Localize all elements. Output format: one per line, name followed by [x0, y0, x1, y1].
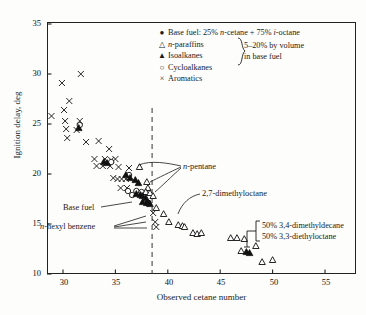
annotation-bracket-line1: 50% 3,4-dimethyldecane — [262, 220, 344, 231]
annotation-n-hexyl-benzene: n-hexyl benzene — [40, 222, 95, 232]
filled-triangle-marker-icon: ▲ — [156, 50, 168, 62]
figure-container: Ignition delay, deg Observed cetane numb… — [0, 0, 366, 315]
x-tick-label-30: 30 — [56, 277, 72, 287]
x-tick-label-45: 45 — [213, 277, 229, 287]
x-tick-label-40: 40 — [161, 277, 177, 287]
legend-brace-line2: in base fuel — [244, 51, 304, 63]
filled-circle-marker-icon: ● — [156, 27, 168, 39]
legend-brace-note: 5–20% by volume in base fuel — [244, 40, 304, 63]
y-tick-label-20: 20 — [22, 168, 41, 178]
annotation-bracket-line2: 50% 3,3-diethyloctane — [262, 231, 336, 242]
y-tick-label-30: 30 — [22, 68, 41, 78]
legend-row-cycloalkanes: ○ Cycloalkanes — [156, 62, 300, 74]
legend-label-n-paraffins: n-paraffins — [168, 39, 204, 51]
y-axis-title: Ignition delay, deg — [12, 79, 22, 171]
x-axis-title: Observed cetane number — [47, 292, 356, 302]
annotation-2-7-dimethyloctane: 2,7-dimethyloctane — [202, 189, 267, 199]
x-tick-label-50: 50 — [266, 277, 282, 287]
annotation-n-pentane: n-pentane — [183, 162, 216, 172]
legend-row-base-fuel: ● Base fuel: 25% n-cetane + 75% i-octane — [156, 27, 300, 39]
x-tick-label-35: 35 — [108, 277, 124, 287]
cross-marker-icon: × — [156, 73, 168, 85]
legend-label-base-fuel: Base fuel: 25% n-cetane + 75% i-octane — [168, 27, 300, 39]
legend: ● Base fuel: 25% n-cetane + 75% i-octane… — [156, 27, 300, 85]
y-tick-label-35: 35 — [22, 18, 41, 28]
x-tick-label-55: 55 — [318, 277, 334, 287]
annotation-base-fuel: Base fuel — [63, 203, 94, 213]
legend-row-aromatics: × Aromatics — [156, 73, 300, 85]
y-tick-label-15: 15 — [22, 218, 41, 228]
legend-label-aromatics: Aromatics — [168, 73, 202, 85]
legend-label-isoalkanes: Isoalkanes — [168, 50, 203, 62]
open-circle-marker-icon: ○ — [156, 62, 168, 74]
y-tick-label-10: 10 — [22, 268, 41, 278]
legend-label-cycloalkanes: Cycloalkanes — [168, 62, 212, 74]
open-triangle-marker-icon: △ — [156, 39, 168, 51]
y-tick-label-25: 25 — [22, 118, 41, 128]
legend-brace-line1: 5–20% by volume — [244, 40, 304, 52]
